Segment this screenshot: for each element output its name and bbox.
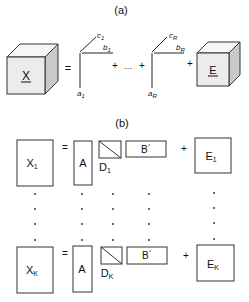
- matrix-a-label-row-k: A: [78, 263, 86, 275]
- vector-cR: [152, 37, 167, 52]
- matrix-ek: [197, 245, 234, 281]
- dots-column-e: [213, 192, 215, 240]
- label-aR: aR: [148, 89, 157, 99]
- vertical-ellipsis-dots: [34, 192, 215, 241]
- equals-sign-a: =: [65, 62, 71, 74]
- dots-column-d: [112, 193, 114, 241]
- label-bR: bR: [176, 43, 185, 53]
- plus-sign-a2: +: [139, 60, 145, 71]
- equation-row-1: X1 = A D1 B´ + E1: [17, 138, 231, 186]
- dots-column-x: [34, 193, 36, 241]
- label-b1: b1: [103, 43, 111, 53]
- panel-b-label: (b): [115, 117, 128, 129]
- matrix-b-label-row-k: B´: [142, 250, 152, 261]
- equals-sign-row-k: =: [62, 248, 68, 259]
- tensor-e-label: E: [209, 64, 216, 76]
- plus-sign-row-1: +: [181, 143, 187, 154]
- label-cR: cR: [169, 31, 178, 41]
- matrix-b-label-row-1: B´: [141, 144, 151, 155]
- ellipsis: …: [124, 61, 133, 71]
- plus-sign-a3: +: [187, 58, 193, 69]
- plus-sign-row-k: +: [183, 250, 189, 261]
- label-a1: a1: [77, 89, 85, 99]
- tensor-x-label: X: [22, 69, 30, 83]
- label-c1: c1: [97, 31, 104, 41]
- tensor-e-cube: E: [197, 42, 240, 86]
- matrix-a-label-row-1: A: [79, 157, 87, 169]
- matrix-dk-label: DK: [101, 267, 114, 280]
- dots-column-a: [81, 193, 83, 241]
- tensor-x-cube: X: [7, 44, 58, 94]
- panel-a-label: (a): [114, 4, 127, 16]
- equation-row-k: XK = A DK B´ + EK: [17, 245, 234, 293]
- triad-1: a1 b1 c1: [77, 31, 113, 99]
- plus-sign-a1: +: [112, 60, 118, 71]
- matrix-d1-label: D1: [99, 161, 111, 174]
- diagram-canvas: (a) X = a1 b1 c1 + … + aR bR cR + E (b): [0, 0, 249, 302]
- vector-c1: [80, 37, 96, 52]
- dots-column-b: [148, 193, 150, 241]
- equals-sign-row-1: =: [62, 142, 68, 153]
- triad-r: aR bR cR: [148, 31, 185, 99]
